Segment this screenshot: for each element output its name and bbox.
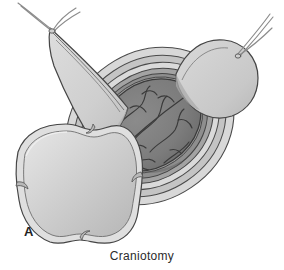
craniotomy-illustration bbox=[0, 0, 284, 270]
craniotomy-figure: A Craniotomy bbox=[0, 0, 284, 270]
panel-label: A bbox=[24, 225, 34, 238]
figure-caption: Craniotomy bbox=[0, 250, 284, 263]
bone-flap bbox=[16, 124, 143, 243]
